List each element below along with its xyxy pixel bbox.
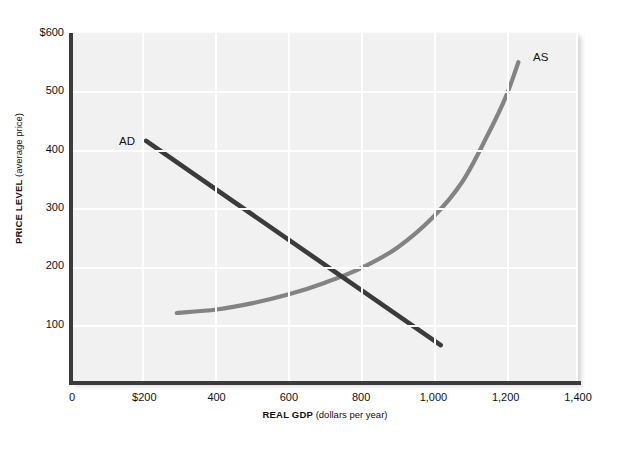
- y-axis-title: PRICE LEVEL (average price): [13, 99, 24, 259]
- gridline-horizontal: [72, 91, 578, 93]
- y-axis-tick-label: 500: [2, 84, 64, 96]
- x-axis-tick-label: 1,200: [476, 391, 536, 403]
- x-axis-tick-label: 1,000: [403, 391, 463, 403]
- ad-curve-label: AD: [119, 135, 135, 147]
- chart-figure: 100200300400500$600 0$2004006008001,0001…: [0, 0, 620, 449]
- gridline-horizontal: [72, 150, 578, 152]
- y-axis-tick-label: 200: [2, 259, 64, 271]
- y-axis-tick-label: 300: [2, 201, 64, 213]
- y-axis-line: [69, 33, 73, 385]
- x-axis-title: REAL GDP (dollars per year): [72, 409, 578, 420]
- y-axis-tick-label: $600: [2, 26, 64, 38]
- x-axis-line: [69, 381, 581, 385]
- gridline-horizontal: [72, 325, 578, 327]
- plot-area: [72, 33, 578, 383]
- as-curve-label: AS: [533, 51, 548, 63]
- y-axis-title-note: (average price): [13, 113, 24, 177]
- x-axis-tick-label: 400: [187, 391, 247, 403]
- x-axis-tick-label: 800: [331, 391, 391, 403]
- ad-line: [146, 141, 441, 345]
- y-axis-tick-label: 400: [2, 143, 64, 155]
- x-axis-tick-label: 0: [42, 391, 102, 403]
- y-axis-title-strong: PRICE LEVEL: [13, 180, 24, 245]
- y-axis-tick-label: 100: [2, 318, 64, 330]
- x-axis-title-note: (dollars per year): [316, 409, 388, 420]
- x-axis-title-strong: REAL GDP: [263, 409, 314, 420]
- x-axis-tick-label: 600: [259, 391, 319, 403]
- as-curve: [177, 62, 519, 313]
- x-axis-tick-label: 1,400: [548, 391, 608, 403]
- gridline-horizontal: [72, 267, 578, 269]
- x-axis-tick-label: $200: [114, 391, 174, 403]
- gridline-horizontal: [72, 208, 578, 210]
